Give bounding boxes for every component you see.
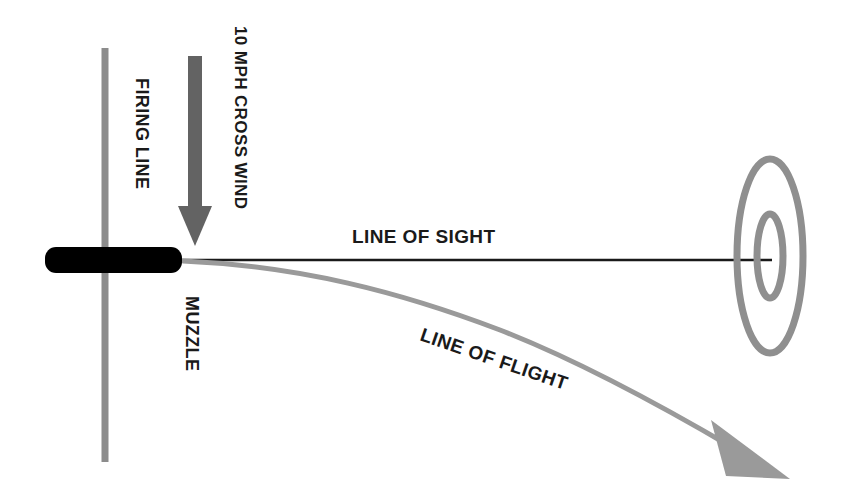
target-rings bbox=[737, 159, 803, 353]
crosswind-drift-diagram: FIRING LINE 10 MPH CROSS WIND MUZZLE LIN… bbox=[0, 0, 841, 489]
target-inner-ring bbox=[757, 214, 783, 298]
line-of-flight-arrow-head bbox=[711, 420, 790, 479]
rifle-barrel bbox=[45, 247, 182, 273]
diagram-canvas: FIRING LINE 10 MPH CROSS WIND MUZZLE LIN… bbox=[0, 0, 841, 489]
line-of-sight-label: LINE OF SIGHT bbox=[352, 226, 495, 247]
line-of-flight-label: LINE OF FLIGHT bbox=[418, 324, 571, 394]
target-outer-ring bbox=[737, 159, 803, 353]
cross-wind-label: 10 MPH CROSS WIND bbox=[231, 26, 250, 209]
cross-wind-arrow-shaft bbox=[188, 56, 202, 208]
cross-wind-arrow bbox=[178, 56, 212, 246]
firing-line-label: FIRING LINE bbox=[132, 78, 152, 189]
cross-wind-arrow-head bbox=[178, 206, 212, 246]
muzzle-label: MUZZLE bbox=[182, 296, 202, 371]
